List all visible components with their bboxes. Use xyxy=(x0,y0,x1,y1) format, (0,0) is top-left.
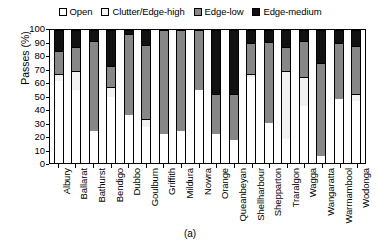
x-axis-tick-label: Orange xyxy=(220,168,230,199)
bar-warrnambool xyxy=(334,30,344,163)
legend-label: Edge-low xyxy=(205,6,244,17)
bar-segment xyxy=(299,30,309,41)
bar-queanbeyan xyxy=(229,30,239,163)
x-axis-tick-mark xyxy=(304,164,305,168)
bar-segment xyxy=(106,97,116,164)
figure-caption: (a) xyxy=(0,228,380,239)
bar-segment xyxy=(106,66,116,87)
y-axis-tick-mark xyxy=(46,56,50,57)
legend-item: Edge-low xyxy=(194,6,244,17)
bar-segment xyxy=(316,30,326,63)
bar-segment xyxy=(89,41,99,131)
y-axis-tick-mark xyxy=(46,124,50,125)
x-axis-tick-label: Bendigo xyxy=(115,168,125,202)
bar-segment xyxy=(211,94,221,134)
bar-segment xyxy=(334,30,344,43)
x-axis-tick-labels: AlburyBallaratBathurstBendigoDubboGoulbu… xyxy=(49,168,366,230)
bar-segment xyxy=(71,90,81,163)
y-axis-tick-mark xyxy=(46,43,50,44)
bar-segment xyxy=(159,134,169,163)
x-axis-tick-label: Traralgon xyxy=(291,168,301,207)
bar-segment xyxy=(89,30,99,41)
x-axis-tick-mark xyxy=(357,164,358,168)
x-axis-tick-label: Nowra xyxy=(203,168,213,195)
x-axis-tick-label: Griffith xyxy=(167,168,177,195)
bar-segment xyxy=(229,94,239,141)
bar-segment xyxy=(229,30,239,94)
plot-wrapper: 0102030405060708090100 xyxy=(49,29,366,164)
bar-segment xyxy=(246,78,256,163)
x-axis-tick-label: Bathurst xyxy=(97,168,107,203)
bar-segment xyxy=(334,99,344,163)
x-axis-tick-mark xyxy=(181,164,182,168)
bar-orange xyxy=(211,30,221,163)
bar-segment xyxy=(71,71,81,90)
legend-label: Clutter/Edge-high xyxy=(112,6,184,17)
bar-dubbo xyxy=(124,30,134,163)
bar-segment xyxy=(176,131,186,163)
bar-segment xyxy=(246,30,256,43)
bar-segment xyxy=(246,43,256,74)
bar-traralgon xyxy=(281,30,291,163)
x-axis-tick-label: Wagga xyxy=(308,168,318,197)
bar-segment xyxy=(264,123,274,163)
x-axis-tick-label: Albury xyxy=(62,168,72,194)
x-axis-tick-label: Shepparton xyxy=(273,168,283,216)
bar-albury xyxy=(54,30,64,163)
bar-segment xyxy=(316,156,326,163)
bar-segment xyxy=(54,30,64,51)
x-axis-tick-label: Wangaratta xyxy=(326,168,336,216)
x-axis-tick-label: Mildura xyxy=(185,168,195,198)
bar-shepparton xyxy=(264,30,274,163)
legend-swatch-icon xyxy=(59,8,67,16)
x-axis-tick-mark xyxy=(199,164,200,168)
bar-ballarat xyxy=(71,30,81,163)
bar-griffith xyxy=(159,30,169,163)
bar-segment xyxy=(229,140,239,163)
bar-bathurst xyxy=(89,30,99,163)
bar-wodonga xyxy=(351,30,361,163)
bar-segment xyxy=(71,30,81,47)
y-axis-tick-mark xyxy=(46,151,50,152)
x-axis-tick-mark xyxy=(322,164,323,168)
legend-item: Edge-medium xyxy=(252,6,321,17)
y-axis-tick-mark xyxy=(46,137,50,138)
bar-segment xyxy=(54,74,64,81)
x-axis-tick-mark xyxy=(287,164,288,168)
bar-segment xyxy=(106,87,116,96)
bar-segment xyxy=(351,30,361,46)
legend-item: Clutter/Edge-high xyxy=(101,6,184,17)
bar-goulburn xyxy=(141,30,151,163)
x-axis-tick-mark xyxy=(146,164,147,168)
bar-segment xyxy=(54,81,64,163)
y-axis-tick-mark xyxy=(46,70,50,71)
bar-segment xyxy=(351,94,361,101)
bar-segment xyxy=(299,41,309,77)
bar-segment xyxy=(124,34,134,115)
bar-segment xyxy=(194,30,204,90)
x-axis-tick-mark xyxy=(128,164,129,168)
bar-wagga xyxy=(299,30,309,163)
bar-segment xyxy=(351,101,361,164)
x-axis-tick-label: Wodonga xyxy=(361,168,371,208)
legend-item: Open xyxy=(59,6,93,17)
bar-wangaratta xyxy=(316,30,326,163)
x-axis-tick-label: Dubbo xyxy=(132,168,142,196)
bar-segment xyxy=(281,139,291,163)
bar-segment xyxy=(334,43,344,99)
bar-segment xyxy=(159,30,169,134)
legend-swatch-icon xyxy=(194,8,202,16)
bar-segment xyxy=(71,47,81,71)
bar-segment xyxy=(351,46,361,94)
bar-segment xyxy=(299,106,309,163)
x-axis-tick-mark xyxy=(234,164,235,168)
x-axis-tick-mark xyxy=(340,164,341,168)
bar-segment xyxy=(106,30,116,66)
x-axis-tick-label: Warrnambool xyxy=(344,168,354,224)
bar-segment xyxy=(141,45,151,119)
x-axis-tick-label: Goulburn xyxy=(150,168,160,206)
bar-segment xyxy=(141,30,151,45)
x-axis-tick-mark xyxy=(163,164,164,168)
bar-segment xyxy=(316,63,326,156)
x-axis-tick-mark xyxy=(58,164,59,168)
